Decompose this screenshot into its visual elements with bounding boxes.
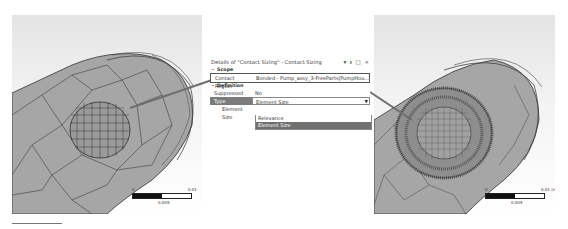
type-dropdown-list: Relevance Element Size [255, 115, 372, 130]
details-title: Details of "Contact Sizing" - Contact Si… [211, 57, 322, 67]
dropdown-option-element-size[interactable]: Element Size [256, 122, 371, 129]
dropdown-icon[interactable]: ▾ [343, 59, 346, 65]
suppressed-value[interactable]: No [252, 89, 370, 97]
contact-region-row[interactable]: Contact Region Bonded - Pump_assy_3-Free… [210, 73, 370, 83]
element-size-label: Element Size [210, 105, 252, 113]
type-select[interactable]: Element Size ▼ [252, 97, 370, 105]
chevron-down-icon[interactable]: ▼ [365, 98, 368, 105]
details-panel: Details of "Contact Sizing" - Contact Si… [210, 57, 370, 131]
details-title-bar: Details of "Contact Sizing" - Contact Si… [210, 57, 370, 67]
element-size-row[interactable]: Element Size [210, 105, 370, 113]
suppressed-label: Suppressed [210, 89, 252, 97]
close-icon[interactable]: × [364, 59, 369, 65]
dropdown-option-relevance[interactable]: Relevance [256, 115, 371, 122]
divider-line [12, 223, 62, 224]
type-row[interactable]: Type Element Size ▼ [210, 97, 370, 105]
collapse-icon[interactable]: − [211, 83, 215, 88]
maximize-icon[interactable]: □ [356, 59, 361, 65]
pin-icon[interactable]: ᵻ [350, 59, 352, 65]
contact-region-label: Contact Region [211, 74, 253, 82]
type-label: Type [210, 97, 252, 105]
contact-region-value[interactable]: Bonded - Pump_assy_3-FreeParts|PumpHou..… [253, 74, 369, 82]
suppressed-row[interactable]: Suppressed No [210, 89, 370, 97]
collapse-icon[interactable]: − [211, 67, 215, 72]
